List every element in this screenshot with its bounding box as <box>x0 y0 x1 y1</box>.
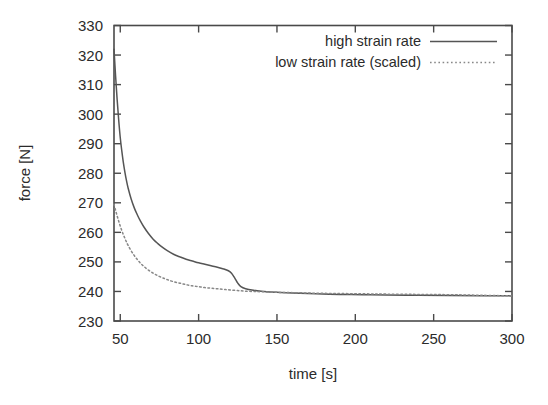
x-tick-label-250: 250 <box>421 330 446 347</box>
y-tick-label-240: 240 <box>78 283 103 300</box>
x-tick-label-300: 300 <box>499 330 524 347</box>
y-tick-label-300: 300 <box>78 106 103 123</box>
force-vs-time-line-chart: 230240250260270280290300310320330 501001… <box>0 0 548 405</box>
x-tick-label-200: 200 <box>343 330 368 347</box>
y-tick-label-270: 270 <box>78 194 103 211</box>
legend-label-low-strain-rate: low strain rate (scaled) <box>275 54 421 70</box>
series-low-strain-rate-scaled <box>114 204 512 296</box>
x-tick-label-100: 100 <box>186 330 211 347</box>
y-tick-label-320: 320 <box>78 47 103 64</box>
y-tick-label-330: 330 <box>78 17 103 34</box>
chart-legend: high strain rate low strain rate (scaled… <box>275 33 497 70</box>
chart-container: 230240250260270280290300310320330 501001… <box>0 0 548 405</box>
y-tick-label-250: 250 <box>78 253 103 270</box>
legend-label-high-strain-rate: high strain rate <box>325 33 421 49</box>
x-tick-label-150: 150 <box>264 330 289 347</box>
y-tick-label-310: 310 <box>78 76 103 93</box>
x-tick-label-50: 50 <box>112 330 129 347</box>
y-axis-tick-labels: 230240250260270280290300310320330 <box>78 17 103 330</box>
y-axis-title: force [N] <box>16 145 33 202</box>
series-high-strain-rate <box>114 49 512 296</box>
y-tick-label-280: 280 <box>78 165 103 182</box>
y-tick-label-290: 290 <box>78 135 103 152</box>
x-axis-tick-labels: 50100150200250300 <box>112 330 525 347</box>
y-tick-label-260: 260 <box>78 224 103 241</box>
y-tick-label-230: 230 <box>78 313 103 330</box>
x-axis-title: time [s] <box>289 365 337 382</box>
